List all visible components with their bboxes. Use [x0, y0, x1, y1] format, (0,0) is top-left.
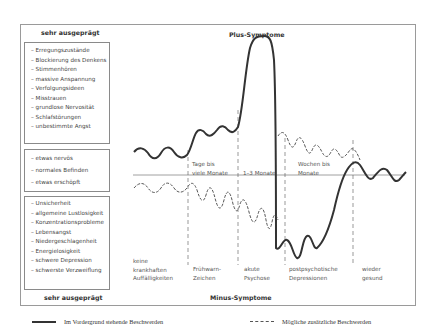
dashed-line-swatch — [250, 321, 274, 322]
foreground-symptoms-curve — [134, 36, 406, 258]
legend-solid: Im Vordergrund stehende Beschwerden — [32, 318, 163, 325]
duration-label: Tage bis viele Monate — [192, 160, 228, 177]
solid-line-swatch — [32, 321, 56, 323]
phase-label: akute Psychose — [244, 265, 270, 282]
legend-solid-label: Im Vordergrund stehende Beschwerden — [64, 318, 163, 325]
phase-label: keine krankhaften Auffälligkeiten — [133, 257, 173, 283]
phase-label: wieder gesund — [362, 265, 383, 282]
phase-label: postpsychotische Depressionen — [289, 265, 338, 282]
duration-label: 1–3 Monate — [243, 160, 276, 177]
legend-dashed: Mögliche zusätzliche Beschwerden — [250, 318, 371, 325]
phase-label: Frühwarn- Zeichen — [193, 265, 221, 282]
legend-dashed-label: Mögliche zusätzliche Beschwerden — [282, 318, 371, 325]
duration-label: Wochen bis Monate — [298, 160, 330, 177]
